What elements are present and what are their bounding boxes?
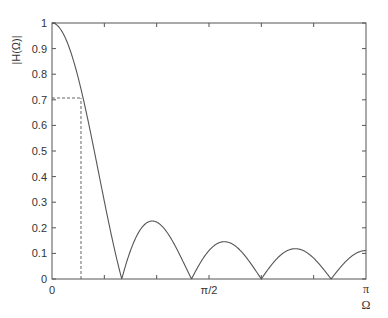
y-axis-label: |H(Ω)| — [10, 35, 22, 64]
magnitude-curve — [52, 23, 366, 279]
magnitude-response-chart: 00.10.20.30.40.50.60.70.80.91 |H(Ω)| 0 π… — [0, 0, 388, 318]
plot-axes — [52, 23, 366, 279]
x-axis-label: Ω — [362, 298, 371, 312]
y-tick-label: 1 — [41, 17, 47, 29]
x-tick-label-0: 0 — [49, 284, 55, 296]
y-tick-label: 0.6 — [32, 119, 47, 131]
half-power-guides — [52, 98, 81, 279]
y-tick-label: 0.4 — [32, 171, 47, 183]
y-tick-label: 0.8 — [32, 68, 47, 80]
y-axis-ticks: 00.10.20.30.40.50.60.70.80.91 — [32, 17, 366, 285]
y-tick-label: 0.2 — [32, 222, 47, 234]
x-tick-label-pi: π — [363, 282, 369, 296]
y-tick-label: 0.7 — [32, 94, 47, 106]
x-tick-label-pi-half: π/2 — [201, 284, 218, 296]
y-tick-label: 0 — [41, 273, 47, 285]
y-tick-label: 0.9 — [32, 43, 47, 55]
x-axis-ticks — [104, 23, 313, 279]
y-tick-label: 0.5 — [32, 145, 47, 157]
y-tick-label: 0.1 — [32, 247, 47, 259]
y-tick-label: 0.3 — [32, 196, 47, 208]
